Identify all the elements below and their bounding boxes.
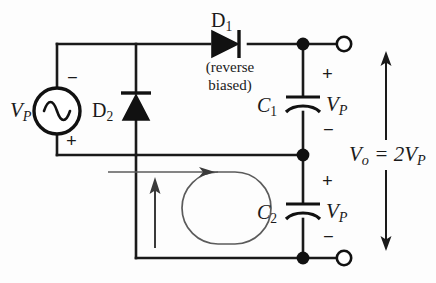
junction-node-middle	[297, 149, 310, 162]
capacitor-2-plus-sign: +	[322, 171, 333, 190]
source-label: VP	[10, 100, 32, 123]
diode-2-label-symbol: D	[92, 99, 106, 121]
capacitor-1-plus-sign: +	[322, 64, 333, 83]
capacitor-1-minus-sign: −	[323, 120, 334, 139]
capacitor-2-minus-sign: −	[323, 227, 334, 246]
ac-voltage-source	[34, 88, 80, 134]
source-plus-sign: +	[66, 131, 77, 150]
diode-1-symbol	[212, 30, 239, 58]
diode-1-note-line-1: (reverse	[182, 60, 278, 75]
diode-1-label-subscript: 1	[225, 19, 232, 34]
current-arrow-through-d2	[150, 177, 161, 248]
diode-1-label-symbol: D	[211, 9, 225, 31]
capacitor-2-label: C2	[257, 202, 277, 225]
capacitor-1-symbol	[286, 97, 320, 112]
circuit-diagram-figure: VP − + D1 (reverse biased) D2 C1 VP + − …	[0, 0, 436, 283]
diode-2-triangle	[123, 95, 149, 120]
junction-node-top	[297, 38, 310, 51]
source-label-symbol: V	[10, 98, 23, 122]
capacitor-2-symbol	[286, 204, 320, 219]
capacitor-2-voltage-subscript: P	[339, 209, 348, 225]
output-voltage-subscript: o	[362, 152, 369, 168]
current-flow-loop-arrow	[108, 167, 271, 244]
capacitor-1-voltage-label: VP	[326, 94, 348, 117]
diode-2-label-subscript: 2	[106, 109, 113, 124]
capacitor-1-label: C1	[257, 95, 277, 118]
source-minus-sign: −	[67, 68, 78, 87]
capacitor-2-label-subscript: 2	[270, 211, 277, 226]
output-voltage-symbol: V	[349, 142, 362, 166]
output-voltage-expression-subscript: P	[417, 152, 426, 168]
diode-1-label: D1	[211, 10, 232, 33]
capacitor-1-label-symbol: C	[257, 94, 270, 116]
junction-node-bottom	[297, 252, 310, 265]
capacitor-2-label-symbol: C	[257, 201, 270, 223]
source-label-subscript: P	[23, 108, 32, 124]
diode-1-triangle	[212, 31, 238, 57]
output-terminal-bottom	[337, 251, 351, 265]
capacitor-1-voltage-subscript: P	[339, 102, 348, 118]
capacitor-2-voltage-symbol: V	[326, 199, 339, 223]
output-voltage-expression: = 2V	[369, 142, 417, 166]
diode-2-label: D2	[92, 100, 113, 123]
capacitor-1-label-subscript: 1	[270, 104, 277, 119]
capacitor-1-voltage-symbol: V	[326, 92, 339, 116]
capacitor-2-voltage-label: VP	[326, 201, 348, 224]
output-terminal-top	[337, 37, 351, 51]
diode-1-reverse-biased-note: (reverse biased)	[182, 60, 278, 93]
diode-1-note-line-2: biased)	[182, 78, 278, 93]
output-voltage-label: Vo = 2VP	[349, 144, 426, 167]
diode-2-symbol	[121, 93, 151, 120]
